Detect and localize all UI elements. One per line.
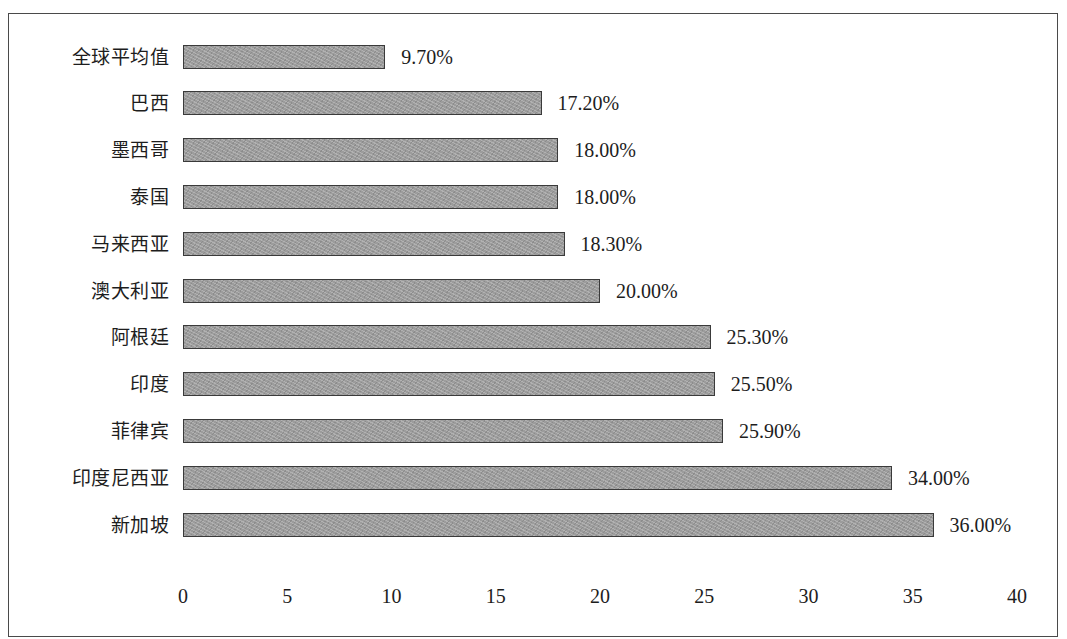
- bar-track: 9.70%: [183, 45, 1057, 69]
- category-label: 马来西亚: [91, 234, 169, 253]
- bar-row: 墨西哥18.00%: [9, 127, 1057, 174]
- bar-row: 印度尼西亚34.00%: [9, 454, 1057, 501]
- bar[interactable]: [183, 419, 723, 443]
- x-axis: 0510152025303540: [183, 586, 1057, 614]
- bar-track: 18.00%: [183, 185, 1057, 209]
- category-label: 印度尼西亚: [72, 468, 170, 487]
- bar[interactable]: [183, 138, 558, 162]
- category-label: 全球平均值: [72, 47, 170, 66]
- category-label: 新加坡: [111, 515, 170, 534]
- bar-value-label: 20.00%: [616, 281, 678, 301]
- bar-track: 25.50%: [183, 372, 1057, 396]
- bar-track: 18.30%: [183, 232, 1057, 256]
- bar[interactable]: [183, 279, 600, 303]
- bar-row: 泰国18.00%: [9, 173, 1057, 220]
- x-axis-tick-label: 30: [799, 586, 819, 606]
- plot-area: 全球平均值9.70%巴西17.20%墨西哥18.00%泰国18.00%马来西亚1…: [9, 14, 1057, 636]
- category-label: 泰国: [130, 187, 169, 206]
- bar-value-label: 18.00%: [574, 140, 636, 160]
- x-axis-tick-label: 5: [282, 586, 292, 606]
- x-axis-tick-label: 25: [694, 586, 714, 606]
- bar[interactable]: [183, 185, 558, 209]
- x-axis-tick-label: 15: [486, 586, 506, 606]
- category-label: 阿根廷: [111, 328, 170, 347]
- bar-row: 巴西17.20%: [9, 80, 1057, 127]
- bar-track: 25.90%: [183, 419, 1057, 443]
- bar-value-label: 36.00%: [950, 515, 1012, 535]
- category-label: 墨西哥: [111, 141, 170, 160]
- bar-value-label: 25.30%: [727, 327, 789, 347]
- bar-value-label: 25.90%: [739, 421, 801, 441]
- category-label: 巴西: [130, 94, 169, 113]
- bar-track: 25.30%: [183, 325, 1057, 349]
- bar-row: 全球平均值9.70%: [9, 33, 1057, 80]
- bar[interactable]: [183, 91, 542, 115]
- bar-value-label: 34.00%: [908, 468, 970, 488]
- bar-value-label: 9.70%: [401, 47, 453, 67]
- bar[interactable]: [183, 325, 711, 349]
- chart-frame: 全球平均值9.70%巴西17.20%墨西哥18.00%泰国18.00%马来西亚1…: [8, 13, 1058, 637]
- bar-value-label: 25.50%: [731, 374, 793, 394]
- bar-row: 马来西亚18.30%: [9, 220, 1057, 267]
- bar-row: 新加坡36.00%: [9, 501, 1057, 548]
- bar[interactable]: [183, 45, 385, 69]
- x-axis-tick-label: 20: [590, 586, 610, 606]
- bar[interactable]: [183, 232, 565, 256]
- bar[interactable]: [183, 466, 892, 490]
- bar-track: 18.00%: [183, 138, 1057, 162]
- category-label: 澳大利亚: [91, 281, 169, 300]
- bar-track: 20.00%: [183, 279, 1057, 303]
- bar-value-label: 18.30%: [581, 234, 643, 254]
- x-axis-tick-label: 35: [903, 586, 923, 606]
- bar-row: 菲律宾25.90%: [9, 407, 1057, 454]
- bar-value-label: 17.20%: [558, 93, 620, 113]
- bar-row: 澳大利亚20.00%: [9, 267, 1057, 314]
- bar-track: 34.00%: [183, 466, 1057, 490]
- x-axis-tick-label: 40: [1007, 586, 1027, 606]
- x-axis-tick-label: 10: [382, 586, 402, 606]
- bar-track: 17.20%: [183, 91, 1057, 115]
- bar-track: 36.00%: [183, 513, 1057, 537]
- bar-row: 印度25.50%: [9, 361, 1057, 408]
- category-label: 印度: [130, 375, 169, 394]
- category-label: 菲律宾: [111, 421, 170, 440]
- bar[interactable]: [183, 372, 715, 396]
- bar-row: 阿根廷25.30%: [9, 314, 1057, 361]
- bar[interactable]: [183, 513, 934, 537]
- bar-value-label: 18.00%: [574, 187, 636, 207]
- x-axis-tick-label: 0: [178, 586, 188, 606]
